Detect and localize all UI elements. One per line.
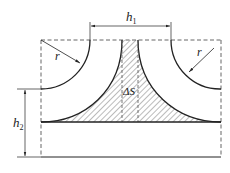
delta-s-label: ΔS — [122, 85, 135, 97]
top-left-fillet-arc — [41, 40, 90, 89]
r-right-label: r — [197, 45, 202, 59]
radius-left-leader — [41, 40, 80, 63]
fillet-area-diagram: h1 h2 r r ΔS — [0, 0, 230, 173]
h1-dimension — [90, 22, 171, 40]
top-right-fillet-arc — [171, 40, 221, 89]
r-left-label: r — [55, 49, 60, 63]
h1-label: h1 — [126, 9, 137, 26]
h2-label: h2 — [13, 115, 24, 132]
diagram-svg: h1 h2 r r ΔS — [0, 0, 230, 173]
